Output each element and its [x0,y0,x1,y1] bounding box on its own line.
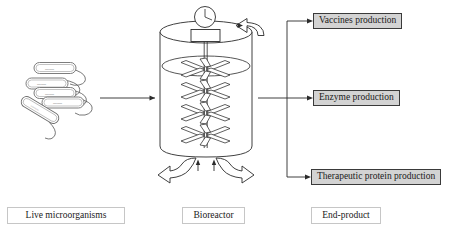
product-label: Therapeutic protein production [317,172,435,182]
product-box-therapeutic[interactable]: Therapeutic protein production [311,169,441,185]
svg-text:ooooooo: ooooooo [45,93,55,96]
bioreactor-motor-box [191,30,220,42]
svg-text:ooooooo: ooooooo [53,102,63,105]
product-box-vaccines[interactable]: Vaccines production [313,13,402,29]
diagram-canvas: ooooooo ooooooo ooooooo ooooo [0,0,465,243]
output-branch-connector [258,19,313,180]
stage-caption-label: End-product [322,211,370,221]
stage-caption-bioreactor: Bioreactor [182,207,245,224]
svg-text:ooooooo: ooooooo [45,68,55,71]
product-label: Vaccines production [319,16,396,26]
inlet-flow-arrow [100,96,155,101]
stage-caption-microorganisms: Live microorganisms [7,207,125,224]
product-box-enzyme[interactable]: Enzyme production [313,90,400,106]
svg-text:ooooooo: ooooooo [37,83,47,86]
product-label: Enzyme production [319,93,394,103]
stage-caption-endproduct: End-product [311,207,381,224]
microorganism-group: ooooooo ooooooo ooooooo ooooo [19,63,92,140]
aeration-outlet-arrows [158,158,254,183]
bioreactor-gauge [195,7,216,28]
stage-caption-label: Bioreactor [193,211,233,221]
stage-caption-label: Live microorganisms [26,211,107,221]
